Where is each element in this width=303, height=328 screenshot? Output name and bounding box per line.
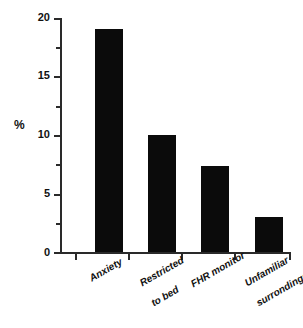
x-axis-label-restricted-line2: to bed <box>149 284 180 309</box>
bar-chart-figure: % 20 15 10 5 0 Anxiety Restricted to bed… <box>0 0 303 328</box>
bar-restricted-to-bed <box>148 135 176 252</box>
y-minor-tick-12-5 <box>56 106 61 108</box>
y-tick-mark-10 <box>54 135 61 137</box>
x-tick-mark-0 <box>75 254 77 260</box>
x-axis-label-anxiety-line1: Anxiety <box>87 256 124 284</box>
y-tick-mark-5 <box>54 194 61 196</box>
y-minor-tick-7-5 <box>56 164 61 166</box>
y-tick-label-20: 20 <box>24 12 50 23</box>
y-tick-label-10: 10 <box>24 129 50 140</box>
bar-anxiety <box>95 29 123 252</box>
y-tick-mark-15 <box>54 76 61 78</box>
y-tick-label-15: 15 <box>24 70 50 81</box>
bar-fhr-monitor <box>201 166 229 252</box>
y-minor-tick-2-5 <box>56 223 61 225</box>
y-minor-tick-17-5 <box>56 47 61 49</box>
y-tick-mark-0 <box>54 252 61 254</box>
y-tick-label-5: 5 <box>24 188 50 199</box>
y-tick-label-0: 0 <box>24 247 50 258</box>
y-tick-mark-20 <box>54 18 61 20</box>
x-tick-mark-1 <box>128 254 130 260</box>
